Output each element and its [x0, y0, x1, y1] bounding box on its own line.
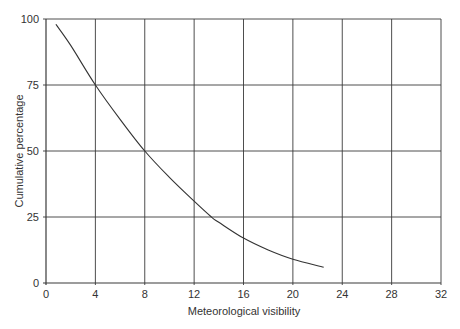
x-tick-label: 8: [142, 288, 148, 300]
data-curve: [56, 24, 324, 267]
x-tick-label: 12: [188, 288, 200, 300]
y-tick-label: 50: [27, 145, 39, 157]
x-tick-label: 24: [336, 288, 348, 300]
x-tick-label: 32: [435, 288, 447, 300]
y-tick-label: 0: [33, 277, 39, 289]
x-axis-label: Meteorological visibility: [188, 305, 301, 317]
x-tick-label: 20: [287, 288, 299, 300]
grid-lines: [43, 19, 441, 285]
y-tick-label: 100: [21, 13, 39, 25]
y-axis-label: Cumulative percentage: [13, 94, 25, 207]
y-tick-label: 25: [27, 211, 39, 223]
x-tick-label: 16: [237, 288, 249, 300]
x-axis-ticks: 048121620242832: [43, 288, 447, 300]
x-tick-label: 0: [43, 288, 49, 300]
x-tick-label: 4: [92, 288, 98, 300]
x-tick-label: 28: [386, 288, 398, 300]
y-tick-label: 75: [27, 79, 39, 91]
cumulative-visibility-chart: 0255075100 048121620242832 Meteorologica…: [0, 0, 460, 329]
